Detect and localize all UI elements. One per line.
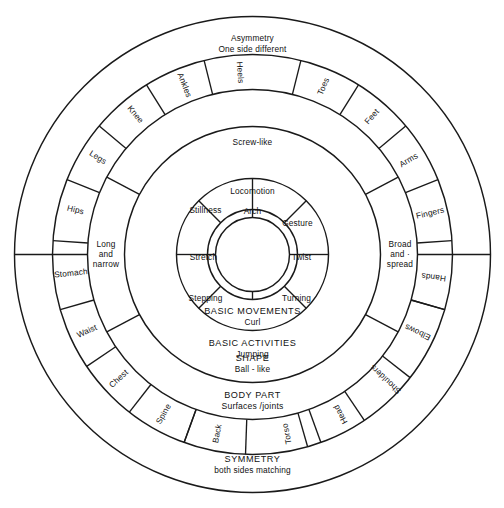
activities-label-stepping: Stepping: [189, 293, 223, 303]
shape-screwlike-label: Screw-like: [233, 137, 273, 147]
divider-inner-bodypart-3: [366, 315, 399, 332]
bodypart-segment-back: Back: [210, 423, 224, 444]
divider-bodypart-19: [411, 300, 445, 310]
divider-bodypart-1: [417, 241, 452, 243]
bodypart-segment-fingers: Fingers: [415, 205, 445, 221]
inner-bodypart-left-line1: and: [99, 249, 114, 259]
bodypart-segment-legs: Legs: [88, 148, 109, 166]
divider-bodypart-11: [60, 300, 94, 310]
concentric-wheel-svg: ArchTwistStretchBASIC MOVEMENTSCurlLocom…: [0, 0, 504, 508]
divider-inner-bodypart-1: [107, 177, 140, 194]
divider-bodypart-16: [298, 413, 308, 447]
divider-bodypart-7: [147, 85, 166, 115]
divider-bodypart-13: [129, 385, 151, 413]
basic-movements-band-label: BASIC MOVEMENTS: [204, 306, 301, 316]
movement-wheel-diagram: ArchTwistStretchBASIC MOVEMENTSCurlLocom…: [0, 0, 504, 508]
movements-segment-label-2: Stretch: [190, 252, 218, 262]
divider-bodypart-9: [67, 180, 99, 193]
divider-inner-bodypart-2: [107, 315, 140, 332]
diagram-labels: ArchTwistStretchBASIC MOVEMENTSCurlLocom…: [54, 33, 447, 475]
divider-bodypart-bottom-right: [309, 410, 321, 443]
activities-label-turning: Turning: [282, 293, 311, 303]
bodypart-segment-stomach: Stomach: [54, 266, 89, 280]
bodypart-surfaces-label: Surfaces /joints: [222, 401, 284, 411]
ring-core-action: [216, 218, 290, 292]
divider-bodypart-5: [292, 60, 300, 94]
basic-activities-band-label: BASIC ACTIVITIES: [209, 338, 297, 348]
bodypart-segment-feet: Feet: [362, 106, 381, 126]
bodypart-segment-elbows: Elbows: [403, 322, 432, 343]
asymmetry-label-line1: Asymmetry: [231, 33, 275, 43]
bodypart-segment-heels: Heels: [235, 61, 247, 84]
inner-bodypart-left-line2: narrow: [93, 259, 120, 269]
movements-segment-label-0: Arch: [244, 206, 262, 216]
divider-bodypart-4: [340, 85, 359, 115]
inner-bodypart-right-line1: and ·: [390, 249, 410, 259]
activities-label-locomotion: Locomotion: [230, 186, 275, 196]
divider-bodypart-10: [53, 241, 88, 243]
divider-bodypart-12: [87, 347, 116, 367]
divider-bodypart-6: [204, 60, 212, 94]
divider-bodypart-17: [345, 391, 365, 420]
activities-label-stillness: Stillness: [189, 205, 221, 215]
inner-bodypart-right-line0: Broad: [389, 239, 412, 249]
movements-segment-label-1: Twist: [292, 252, 312, 262]
bodypart-segment-head: Head: [331, 403, 350, 426]
basic-movements-curl-label: Curl: [245, 317, 261, 327]
shape-band-label: SHAPE: [236, 353, 270, 363]
bodypart-band-label: BODY PART: [224, 390, 281, 400]
inner-bodypart-right-line2: spread: [387, 259, 414, 269]
symmetry-label-line1: SYMMETRY: [225, 454, 281, 464]
shape-balllike-label: Ball - like: [235, 364, 271, 374]
bodypart-segment-ankles: Ankles: [175, 71, 194, 99]
bodypart-segment-chest: Chest: [107, 367, 131, 390]
divider-bodypart-2: [405, 180, 437, 193]
bodypart-segment-hips: Hips: [66, 203, 85, 217]
asymmetry-label-line2: One side different: [218, 44, 287, 54]
divider-bodypart-3: [379, 126, 406, 148]
bodypart-segment-arms: Arms: [397, 150, 419, 169]
divider-bodypart-bottom-left: [184, 410, 196, 443]
symmetry-label-line2: both sides matching: [214, 465, 291, 475]
divider-bodypart-8: [99, 126, 126, 148]
divider-inner-bodypart-0: [366, 177, 399, 194]
bodypart-segment-torso: Torso: [280, 422, 294, 445]
activities-label-gesture: Gesture: [282, 218, 313, 228]
bodypart-segment-toes: Toes: [315, 76, 331, 97]
bodypart-segment-waist: Waist: [75, 322, 99, 340]
divider-bodypart-15: [246, 419, 247, 454]
bodypart-segment-hands: Hands: [421, 271, 447, 284]
bodypart-segment-knee: Knee: [126, 103, 147, 125]
bodypart-segment-spine: Spine: [154, 401, 174, 425]
inner-bodypart-left-line0: Long: [96, 239, 115, 249]
